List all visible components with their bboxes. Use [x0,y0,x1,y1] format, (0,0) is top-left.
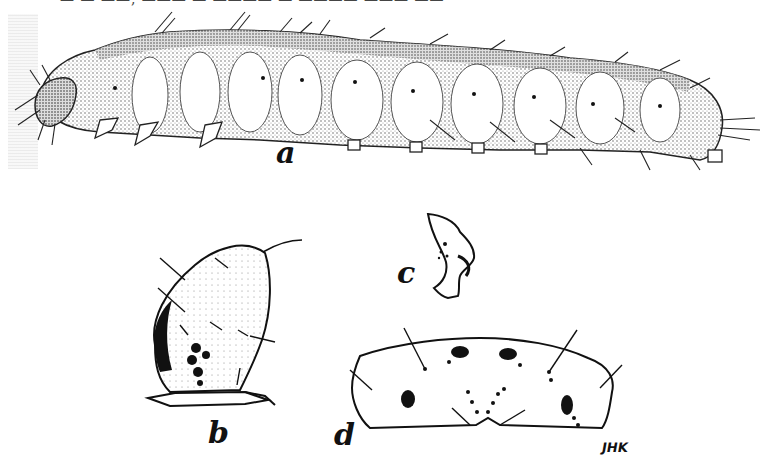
artist-signature: JHK [601,440,629,455]
larva-lateral-drawing [0,0,769,468]
panel-label-d: d [334,420,355,450]
panel-label-b: b [208,418,229,448]
illustration-plate: — — ——, ——— — ———— — ———— ——— —— [0,0,769,468]
mouthpart-drawing [428,214,474,298]
head-capsule-drawing [148,240,302,406]
dorsal-plate-drawing [350,328,622,428]
panel-label-a: a [276,138,295,168]
panel-label-c: c [397,258,415,288]
